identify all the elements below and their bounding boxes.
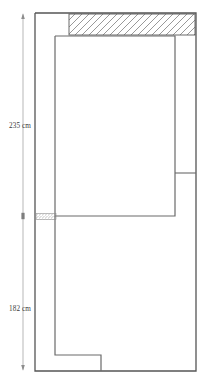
dimension-arrow-top-icon <box>21 13 25 19</box>
inner-room-outline <box>55 36 175 216</box>
dimension-tick-icon <box>21 213 24 219</box>
dimension-label-upper: 235 cm <box>9 123 31 130</box>
floor-plan-drawing: 235 cm 182 cm <box>0 0 209 388</box>
dimension-line-group <box>21 13 25 371</box>
outer-boundary-wall <box>35 13 196 371</box>
dimension-label-lower: 182 cm <box>9 306 31 313</box>
dimension-arrow-bottom-icon <box>21 365 25 371</box>
door-opening <box>36 214 56 220</box>
lower-partition-wall <box>55 216 101 371</box>
floor-plan-canvas <box>0 0 209 388</box>
hatched-wall-band <box>69 14 195 35</box>
